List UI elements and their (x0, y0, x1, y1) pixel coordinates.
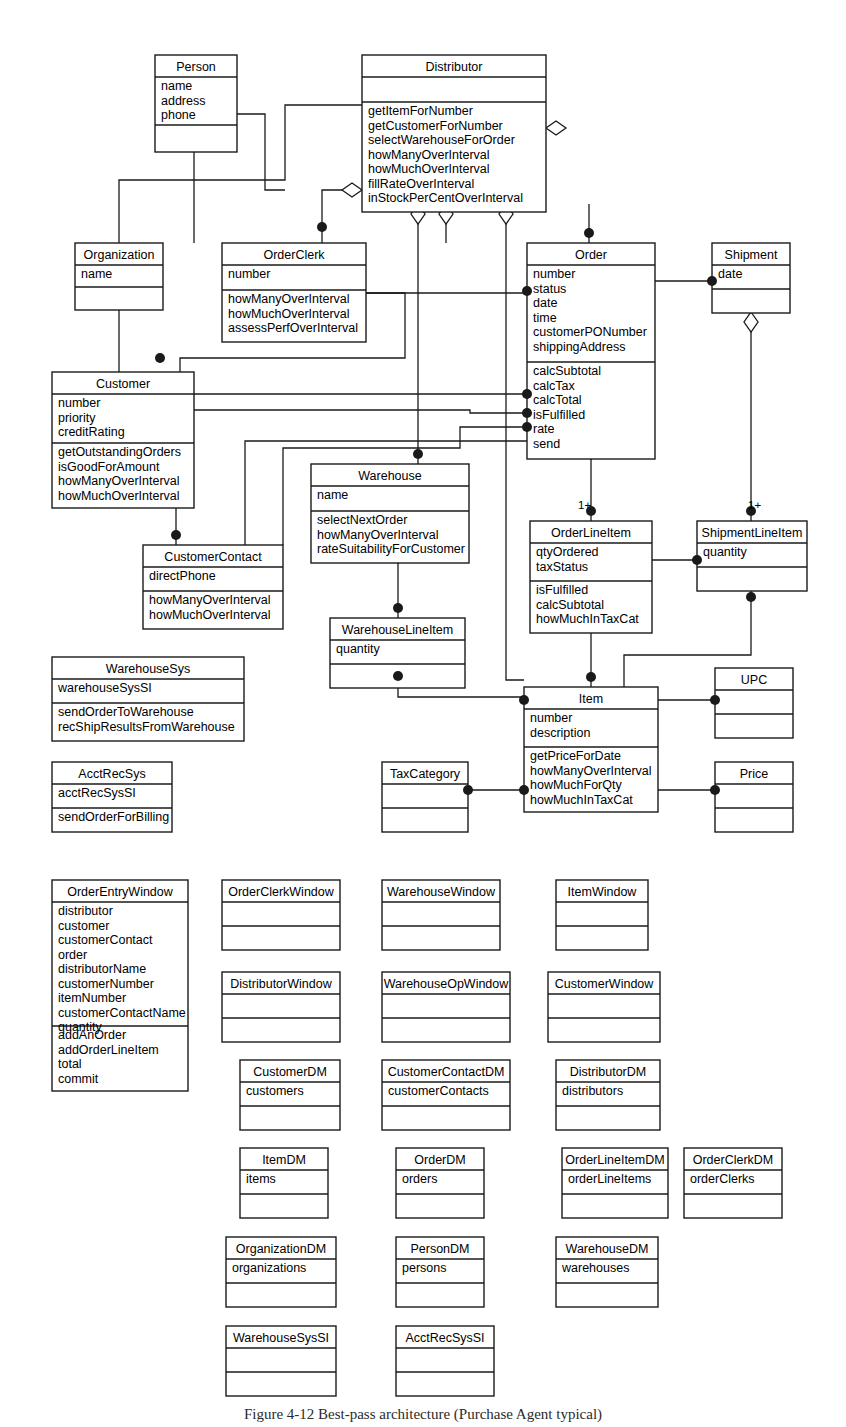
class-attribute-orderlineitem-0: qtyOrdered (536, 545, 599, 559)
class-box-customercontact[interactable]: CustomerContactdirectPhonehowManyOverInt… (143, 545, 283, 629)
class-operation-warehouse-1: howManyOverInterval (317, 528, 439, 542)
composition-dot-5 (522, 286, 532, 296)
class-box-acctrecsyssi[interactable]: AcctRecSysSI (396, 1326, 494, 1396)
class-attribute-warehousedm-0: warehouses (561, 1261, 629, 1275)
class-operation-item-1: howManyOverInterval (530, 764, 652, 778)
class-box-distributorwindow[interactable]: DistributorWindow (222, 972, 340, 1042)
connector-distributor-customer (506, 204, 524, 680)
composition-dot-21 (463, 785, 473, 795)
class-box-warehouse[interactable]: WarehousenameselectNextOrderhowManyOverI… (311, 464, 469, 563)
class-operation-distributor-4: howMuchOverInterval (368, 162, 490, 176)
class-box-order[interactable]: OrdernumberstatusdatetimecustomerPONumbe… (527, 243, 655, 459)
class-box-orderlineitem[interactable]: OrderLineItemqtyOrderedtaxStatusisFulfil… (530, 521, 652, 633)
class-operation-distributor-0: getItemForNumber (368, 104, 473, 118)
class-name-persondm: PersonDM (410, 1242, 469, 1256)
class-name-distributordm: DistributorDM (570, 1065, 646, 1079)
class-box-warehouseopwindow[interactable]: WarehouseOpWindow (382, 972, 510, 1042)
uml-class-diagram: PersonnameaddressphoneDistributorgetItem… (0, 0, 846, 1427)
class-box-distributor[interactable]: DistributorgetItemForNumbergetCustomerFo… (362, 55, 546, 212)
class-operation-warehouse-0: selectNextOrder (317, 513, 407, 527)
class-name-warehousedm: WarehouseDM (566, 1242, 649, 1256)
class-attribute-customer-1: priority (58, 411, 96, 425)
class-box-distributordm[interactable]: DistributorDMdistributors (556, 1060, 660, 1130)
composition-dot-19 (519, 785, 529, 795)
class-attribute-orderentrywindow-7: customerContactName (58, 1006, 186, 1020)
class-operation-order-5: send (533, 437, 560, 451)
class-operation-customer-1: isGoodForAmount (58, 460, 160, 474)
class-attribute-warehouselineitem-0: quantity (336, 642, 381, 656)
class-operation-order-2: calcTotal (533, 393, 582, 407)
class-operation-order-4: rate (533, 422, 555, 436)
class-operation-orderentrywindow-1: addOrderLineItem (58, 1043, 159, 1057)
class-box-orderdm[interactable]: OrderDMorders (396, 1148, 484, 1218)
class-box-persondm[interactable]: PersonDMpersons (396, 1237, 484, 1307)
class-box-customercontactdm[interactable]: CustomerContactDMcustomerContacts (382, 1060, 510, 1130)
class-box-orderentrywindow[interactable]: OrderEntryWindowdistributorcustomercusto… (52, 880, 188, 1091)
class-operation-order-1: calcTax (533, 379, 575, 393)
class-attribute-orderentrywindow-2: customerContact (58, 933, 153, 947)
class-operation-orderclerk-1: howMuchOverInterval (228, 307, 350, 321)
class-box-customerwindow[interactable]: CustomerWindow (548, 972, 660, 1042)
class-name-warehouselineitem: WarehouseLineItem (342, 623, 453, 637)
class-box-organization[interactable]: Organizationname (75, 243, 163, 310)
class-box-orderclerk[interactable]: OrderClerknumberhowManyOverIntervalhowMu… (222, 243, 366, 342)
class-name-shipment: Shipment (725, 248, 778, 262)
class-name-orderentrywindow: OrderEntryWindow (67, 885, 174, 899)
class-box-customer[interactable]: CustomernumberprioritycreditRatinggetOut… (52, 372, 194, 508)
class-box-warehousesys[interactable]: WarehouseSyswarehouseSysSIsendOrderToWar… (52, 657, 244, 741)
class-box-person[interactable]: Personnameaddressphone (155, 55, 237, 152)
class-box-orderclerkwindow[interactable]: OrderClerkWindow (222, 880, 340, 950)
class-box-organizationdm[interactable]: OrganizationDMorganizations (226, 1237, 336, 1307)
class-attribute-order-2: date (533, 296, 557, 310)
class-box-item[interactable]: ItemnumberdescriptiongetPriceForDatehowM… (524, 687, 658, 812)
class-box-acctrecsys[interactable]: AcctRecSysacctRecSysSIsendOrderForBillin… (52, 762, 172, 832)
class-attribute-shipment-0: date (718, 267, 742, 281)
class-name-orderclerk: OrderClerk (263, 248, 325, 262)
composition-dot-2 (584, 228, 594, 238)
class-attribute-orderentrywindow-6: itemNumber (58, 991, 126, 1005)
class-operation-customercontact-0: howManyOverInterval (149, 593, 271, 607)
connector-orderclerk-distributor-agg (322, 190, 362, 243)
class-box-itemdm[interactable]: ItemDMitems (240, 1148, 328, 1218)
class-attribute-person-1: address (161, 94, 205, 108)
class-operation-orderlineitem-1: calcSubtotal (536, 598, 604, 612)
class-box-customerdm[interactable]: CustomerDMcustomers (240, 1060, 340, 1130)
class-attribute-order-4: customerPONumber (533, 325, 647, 339)
class-box-warehousesyssi[interactable]: WarehouseSysSI (226, 1326, 336, 1396)
composition-dot-18 (710, 695, 720, 705)
class-attribute-person-2: phone (161, 108, 196, 122)
connector-customer-order2 (194, 410, 527, 413)
class-operation-item-3: howMuchInTaxCat (530, 793, 633, 807)
class-name-orderlineitemdm: OrderLineItemDM (565, 1153, 664, 1167)
class-attribute-customercontact-0: directPhone (149, 569, 216, 583)
composition-dot-9 (171, 530, 181, 540)
class-box-orderlineitemdm[interactable]: OrderLineItemDMorderLineItems (562, 1148, 668, 1218)
class-operation-customer-0: getOutstandingOrders (58, 445, 181, 459)
class-name-warehousesyssi: WarehouseSysSI (233, 1331, 329, 1345)
composition-dot-20 (710, 785, 720, 795)
multiplicity-label-0: 1+ (578, 499, 591, 511)
figure-caption: Figure 4-12 Best-pass architecture (Purc… (0, 1406, 846, 1423)
class-attribute-order-1: status (533, 282, 566, 296)
class-box-upc[interactable]: UPC (715, 668, 793, 738)
class-attribute-item-0: number (530, 711, 572, 725)
class-box-orderclerkdm[interactable]: OrderClerkDMorderClerks (684, 1148, 782, 1218)
composition-dot-11 (393, 671, 403, 681)
class-box-warehousewindow[interactable]: WarehouseWindow (382, 880, 500, 950)
composition-dot-7 (522, 408, 532, 418)
class-operation-customercontact-1: howMuchOverInterval (149, 608, 271, 622)
class-attribute-orderclerkdm-0: orderClerks (690, 1172, 755, 1186)
class-name-organization: Organization (84, 248, 155, 262)
class-operation-distributor-6: inStockPerCentOverInterval (368, 191, 523, 205)
class-box-taxcategory[interactable]: TaxCategory (382, 762, 468, 832)
class-box-price[interactable]: Price (715, 762, 793, 832)
class-box-shipmentlineitem[interactable]: ShipmentLineItemquantity (697, 521, 807, 591)
aggregation-diamond-0 (546, 121, 566, 135)
class-name-item: Item (579, 692, 603, 706)
class-attribute-order-3: time (533, 311, 557, 325)
class-attribute-customer-0: number (58, 396, 100, 410)
class-box-warehousedm[interactable]: WarehouseDMwarehouses (556, 1237, 658, 1307)
class-box-shipment[interactable]: Shipmentdate (712, 243, 790, 313)
class-name-acctrecsyssi: AcctRecSysSI (405, 1331, 484, 1345)
class-box-itemwindow[interactable]: ItemWindow (556, 880, 648, 950)
